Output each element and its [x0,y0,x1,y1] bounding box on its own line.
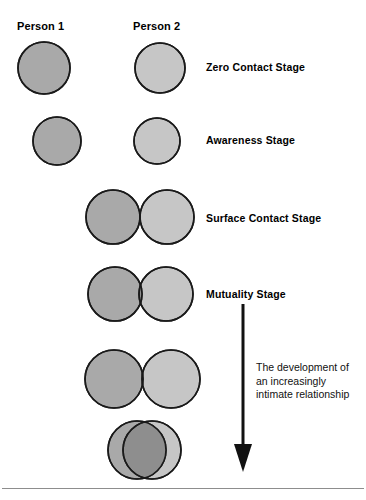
arrow-caption-line: an increasingly [256,375,362,389]
arrow-caption-line: The development of [256,361,362,375]
stage-label-awareness: Awareness Stage [206,134,295,146]
development-arrow-caption: The development ofan increasinglyintimat… [256,361,362,402]
stage-label-mutuality: Mutuality Stage [206,288,286,300]
relationship-stages-diagram: Person 1 Person 2 Zero Contact StageAwar… [0,0,366,500]
stage-label-zero-contact: Zero Contact Stage [206,61,305,73]
bottom-divider [2,488,364,489]
arrow-caption-line: intimate relationship [256,388,362,402]
stage-circles-svg-intimate [0,0,366,500]
stage-label-surface-contact: Surface Contact Stage [206,212,321,224]
